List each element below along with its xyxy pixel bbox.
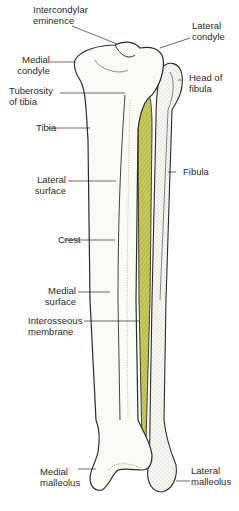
interosseous-membrane-shape xyxy=(138,92,152,446)
label-medial-surface: Medial surface xyxy=(30,286,76,307)
label-lateral-malleolus: Lateral malleolus xyxy=(191,466,231,487)
label-fibula: Fibula xyxy=(183,167,209,178)
label-crest: Crest xyxy=(58,235,81,246)
label-intercondylar-eminence: Intercondylar eminence xyxy=(33,5,88,26)
label-interosseous-membrane: Interosseous membrane xyxy=(28,316,82,337)
label-lateral-condyle: Lateral condyle xyxy=(192,21,225,42)
label-medial-condyle: Medial condyle xyxy=(12,55,50,76)
label-head-of-fibula: Head of fibula xyxy=(189,73,222,94)
label-medial-malleolus: Medial malleolus xyxy=(40,467,80,488)
fibula-bone xyxy=(148,63,183,492)
label-lateral-surface: Lateral surface xyxy=(20,175,66,196)
label-tuberosity-of-tibia: Tuberosity of tibia xyxy=(9,86,53,107)
tibia-fibula-diagram: Intercondylar eminence Lateral condyle M… xyxy=(0,0,239,511)
label-tibia: Tibia xyxy=(36,123,56,134)
